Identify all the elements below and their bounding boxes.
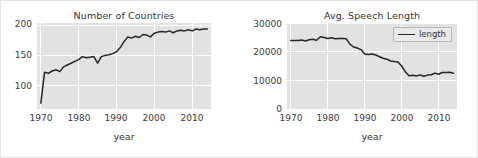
chart-panel-avg-speech-length: Avg. Speech Length 30000 20000 10000 0 (240, 1, 478, 158)
data-line-countries (41, 29, 208, 103)
legend: length (393, 27, 452, 42)
legend-line-sample (398, 34, 415, 35)
x-tick-label: 1990 (347, 113, 383, 123)
x-tick-label: 2010 (421, 113, 457, 123)
x-tick-label: 2010 (174, 113, 210, 123)
figure-container: Number of Countries 200 150 100 1970 1 (0, 0, 478, 158)
data-line-length (291, 37, 454, 77)
x-tick-label: 1980 (61, 113, 97, 123)
x-tick-label: 2000 (384, 113, 420, 123)
x-axis-label-left: year (37, 131, 211, 142)
y-tick-label: 100 (1, 81, 32, 91)
y-tick-label: 20000 (240, 47, 282, 57)
line-chart-left-svg (37, 23, 211, 109)
x-tick-label: 1970 (23, 113, 59, 123)
y-tick-label: 150 (1, 50, 32, 60)
x-tick-label: 1970 (273, 113, 309, 123)
plot-area-right: length (287, 23, 457, 109)
chart-panel-number-of-countries: Number of Countries 200 150 100 1970 1 (1, 1, 240, 158)
chart-title-right: Avg. Speech Length (287, 10, 457, 21)
x-tick-label: 1980 (310, 113, 346, 123)
legend-label-length: length (419, 30, 446, 39)
x-tick-label: 1990 (98, 113, 134, 123)
y-tick-label: 200 (1, 19, 32, 29)
y-tick-label: 10000 (240, 76, 282, 86)
gridlines-left (37, 23, 211, 109)
x-axis-label-right: year (287, 131, 457, 142)
plot-area-left (37, 23, 211, 109)
chart-title-left: Number of Countries (37, 10, 211, 21)
y-tick-label: 30000 (240, 19, 282, 29)
x-tick-label: 2000 (136, 113, 172, 123)
